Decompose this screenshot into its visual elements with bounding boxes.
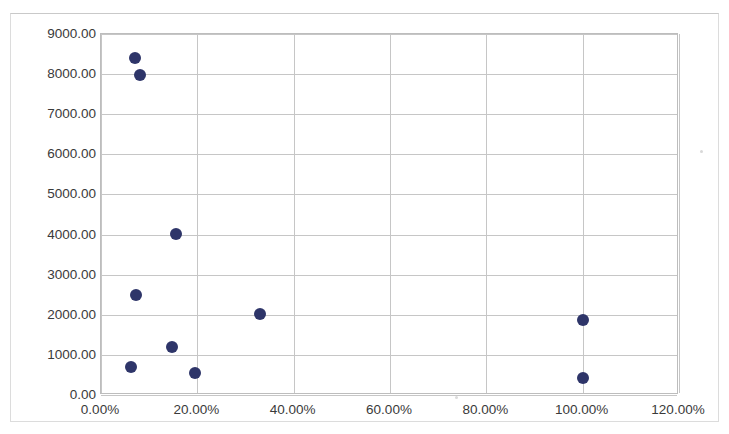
y-axis-tick-label: 7000.00 xyxy=(4,106,96,121)
y-axis-tick-labels: 0.001000.002000.003000.004000.005000.006… xyxy=(0,33,96,394)
y-axis-tick-label: 5000.00 xyxy=(4,186,96,201)
data-point xyxy=(577,372,589,384)
scan-artifact-speck xyxy=(455,396,458,399)
x-axis-tick-label: 60.00% xyxy=(366,402,412,417)
scatter-chart-figure: 0.001000.002000.003000.004000.005000.006… xyxy=(0,0,729,434)
y-axis-tick-label: 2000.00 xyxy=(4,306,96,321)
gridline-horizontal xyxy=(101,114,677,115)
x-axis-tick-label: 20.00% xyxy=(173,402,219,417)
y-axis-tick-label: 6000.00 xyxy=(4,146,96,161)
y-axis-tick-label: 1000.00 xyxy=(4,346,96,361)
y-axis-tick-label: 3000.00 xyxy=(4,266,96,281)
gridline-vertical xyxy=(679,34,680,393)
scan-artifact-speck xyxy=(700,150,703,153)
gridline-horizontal xyxy=(101,194,677,195)
y-axis-tick-label: 8000.00 xyxy=(4,66,96,81)
gridline-horizontal xyxy=(101,355,677,356)
data-point xyxy=(130,289,142,301)
y-axis-tick-label: 9000.00 xyxy=(4,26,96,41)
data-point xyxy=(254,308,266,320)
data-point xyxy=(189,367,201,379)
gridline-horizontal xyxy=(101,154,677,155)
x-axis-tick-label: 80.00% xyxy=(462,402,508,417)
data-point xyxy=(134,69,146,81)
data-point xyxy=(577,314,589,326)
y-axis-tick-label: 4000.00 xyxy=(4,226,96,241)
gridline-horizontal xyxy=(101,275,677,276)
data-point xyxy=(166,341,178,353)
x-axis-tick-labels: 0.00%20.00%40.00%60.00%80.00%100.00%120.… xyxy=(100,402,678,422)
gridline-horizontal xyxy=(101,315,677,316)
gridline-horizontal xyxy=(101,395,677,396)
gridline-horizontal xyxy=(101,235,677,236)
x-axis-tick-label: 40.00% xyxy=(270,402,316,417)
gridline-vertical xyxy=(101,34,102,393)
gridline-vertical xyxy=(390,34,391,393)
gridline-vertical xyxy=(486,34,487,393)
plot-area xyxy=(100,33,678,394)
gridline-vertical xyxy=(197,34,198,393)
y-axis-tick-label: 0.00 xyxy=(4,387,96,402)
x-axis-tick-label: 120.00% xyxy=(651,402,704,417)
x-axis-tick-label: 100.00% xyxy=(555,402,608,417)
gridline-vertical xyxy=(583,34,584,393)
x-axis-tick-label: 0.00% xyxy=(81,402,119,417)
gridline-horizontal xyxy=(101,74,677,75)
gridline-vertical xyxy=(294,34,295,393)
data-point xyxy=(125,361,137,373)
gridline-horizontal xyxy=(101,34,677,35)
data-point xyxy=(129,52,141,64)
data-point xyxy=(170,228,182,240)
